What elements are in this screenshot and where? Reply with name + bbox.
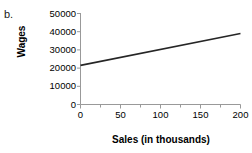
data-series-group xyxy=(81,34,241,66)
axes-group xyxy=(81,13,241,105)
plot-area xyxy=(0,0,252,153)
chart-figure: b. Wages 01000020000300004000050000 0501… xyxy=(0,0,252,153)
data-line xyxy=(81,34,241,66)
